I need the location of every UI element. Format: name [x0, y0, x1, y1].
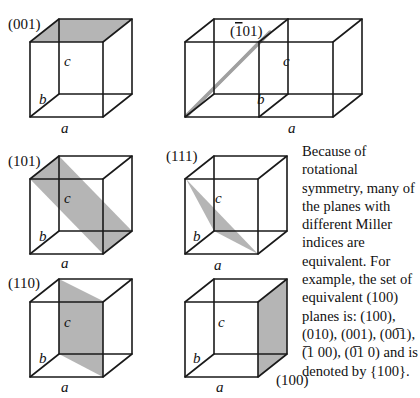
axis-c: c [283, 53, 290, 69]
axis-c: c [64, 190, 71, 206]
label-minus101: (101) [230, 23, 263, 40]
cube-001: (001) c b a [8, 16, 132, 136]
cube-100: (100) c b a [185, 279, 309, 395]
caption-line: example, the set of [302, 270, 420, 288]
caption-line: rotational [302, 160, 420, 178]
axis-b: b [39, 228, 47, 244]
label-101: (101) [8, 153, 41, 170]
axis-b: b [39, 350, 47, 366]
axis-b: b [193, 350, 201, 366]
axis-a: a [61, 120, 69, 136]
axis-a: a [214, 257, 222, 273]
caption-line: Because of [302, 142, 420, 160]
cube-minus101: (101) c b a [185, 19, 362, 136]
label-110: (110) [8, 275, 40, 292]
axis-b: b [39, 91, 47, 107]
axis-c: c [215, 190, 222, 206]
plane-100 [258, 279, 287, 377]
caption-line: (̅1 00), (0̅1 0) and is [302, 343, 420, 361]
axis-c: c [64, 314, 71, 330]
caption-line: planes is: (100), [302, 307, 420, 325]
label-111: (111) [166, 148, 197, 165]
caption-line: equivalent (100) [302, 288, 420, 306]
axis-a: a [288, 120, 296, 136]
axis-b: b [193, 228, 201, 244]
axis-a: a [61, 379, 69, 395]
caption-line: (010), (001), (00̅1), [302, 325, 420, 343]
axis-a: a [216, 379, 224, 395]
caption-line: the planes with [302, 197, 420, 215]
cube-101: (101) c b a [8, 153, 132, 271]
axis-c: c [64, 53, 71, 69]
caption-line: equivalent. For [302, 252, 420, 270]
cube-111: (111) c b a [166, 148, 287, 273]
explanation-caption: Because of rotational symmetry, many of … [302, 142, 420, 380]
caption-line: denoted by {100}. [302, 362, 420, 380]
label-001: (001) [8, 16, 41, 33]
cube-110: (110) c b a [8, 275, 132, 395]
caption-line: symmetry, many of [302, 179, 420, 197]
axis-b: b [257, 91, 265, 107]
axis-a: a [61, 255, 69, 271]
caption-line: indices are [302, 233, 420, 251]
caption-line: different Miller [302, 215, 420, 233]
axis-c: c [218, 314, 225, 330]
